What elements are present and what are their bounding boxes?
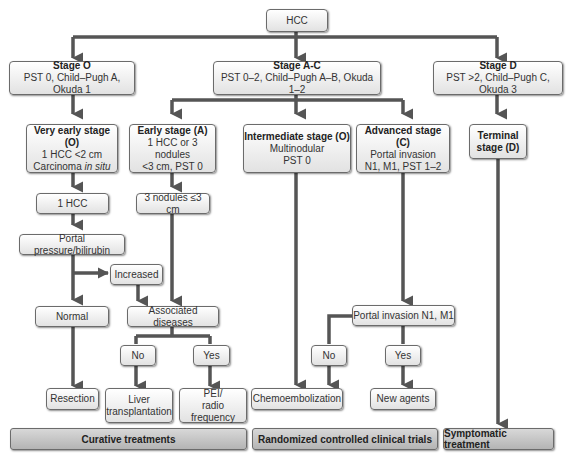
portal-invasion-node: Portal invasion N1, M1: [352, 305, 455, 326]
stage-o-title: Stage O: [53, 60, 91, 72]
early-line1: 1 HCC or 3 nodules: [130, 137, 215, 161]
very-early-stage-box: Very early stage (O) 1 HCC <2 cm Carcino…: [26, 124, 118, 173]
associated-diseases-node: Associated diseases: [127, 306, 219, 327]
early-line2: <3 cm, PST 0: [142, 161, 203, 173]
advanced-line2: N1, M1, PST 1–2: [365, 161, 442, 173]
stage-d-title: Stage D: [479, 60, 516, 72]
one-hcc-node: 1 HCC: [36, 193, 109, 214]
chemoembolization-node: Chemoembolization: [251, 388, 343, 410]
very-early-title: Very early stage (O): [27, 125, 117, 149]
increased-node: Increased: [110, 264, 163, 285]
rct-band: Randomized controlled clinical trials: [252, 428, 438, 450]
advanced-stage-box: Advanced stage (C) Portal invasion N1, M…: [356, 124, 450, 173]
no-node-left: No: [120, 345, 156, 366]
yes-node-right: Yes: [385, 345, 421, 366]
intermediate-stage-box: Intermediate stage (O) Multinodular PST …: [243, 124, 351, 173]
early-title: Early stage (A): [137, 125, 207, 137]
stage-d-box: Stage D PST >2, Child–Pugh C, Okuda 3: [433, 61, 563, 95]
early-stage-box: Early stage (A) 1 HCC or 3 nodules <3 cm…: [129, 124, 216, 173]
hcc-node: HCC: [266, 9, 328, 32]
normal-node: Normal: [35, 306, 109, 327]
stage-o-criteria: PST 0, Child–Pugh A, Okuda 1: [10, 72, 134, 96]
terminal-title1: Terminal: [478, 130, 519, 142]
terminal-title2: stage (D): [477, 142, 520, 154]
stage-d-criteria: PST >2, Child–Pugh C, Okuda 3: [434, 72, 562, 96]
stage-o-box: Stage O PST 0, Child–Pugh A, Okuda 1: [9, 61, 135, 95]
intermediate-line1: Multinodular: [270, 143, 324, 155]
liver-transplantation-node: Liver transplantation: [105, 388, 173, 423]
curative-treatments-band: Curative treatments: [10, 428, 247, 450]
three-nodules-node: 3 nodules ≤3 cm: [136, 193, 210, 214]
stage-a-c-box: Stage A-C PST 0–2, Child–Pugh A–B, Okuda…: [213, 61, 381, 95]
terminal-stage-box: Terminal stage (D): [469, 124, 527, 159]
symptomatic-treatment-band: Symptomatic treatment: [443, 428, 554, 450]
no-node-right: No: [311, 345, 347, 366]
pei-radiofrequency-node: PEI/ radio frequency: [179, 388, 247, 423]
intermediate-title: Intermediate stage (O): [244, 131, 350, 143]
new-agents-node: New agents: [370, 388, 436, 410]
yes-node-left: Yes: [193, 345, 230, 366]
intermediate-line2: PST 0: [283, 155, 311, 167]
very-early-line1: 1 HCC <2 cm: [42, 149, 102, 161]
resection-node: Resection: [46, 388, 99, 410]
advanced-title: Advanced stage (C): [357, 125, 449, 149]
portal-pressure-node: Portal pressure/bilirubin: [19, 234, 125, 255]
hcc-label: HCC: [286, 15, 308, 27]
very-early-line2: Carcinoma in situ: [33, 161, 110, 173]
stage-a-c-criteria: PST 0–2, Child–Pugh A–B, Okuda 1–2: [214, 72, 380, 96]
advanced-line1: Portal invasion: [370, 149, 436, 161]
stage-a-c-title: Stage A-C: [273, 60, 320, 72]
